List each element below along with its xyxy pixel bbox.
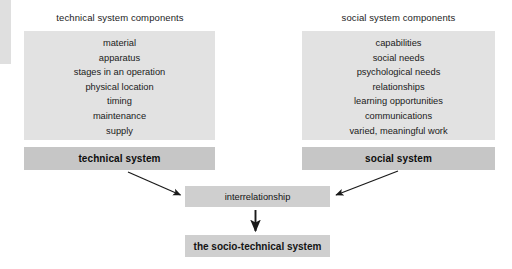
list-item: maintenance — [24, 109, 215, 124]
list-item: communications — [302, 109, 495, 124]
arrow-technical-to-interrelationship — [128, 172, 181, 195]
scan-edge-artifact — [0, 0, 11, 64]
list-item: social needs — [302, 51, 495, 66]
technical-column-heading: technical system components — [24, 12, 216, 23]
social-system-bar: social system — [302, 147, 495, 170]
list-item: learning opportunities — [302, 94, 495, 109]
list-item: timing — [24, 94, 215, 109]
socio-technical-system-box: the socio-technical system — [185, 235, 330, 257]
social-components-box: capabilities social needs psychological … — [302, 31, 495, 140]
list-item: capabilities — [302, 36, 495, 51]
list-item: apparatus — [24, 51, 215, 66]
list-item: varied, meaningful work — [302, 124, 495, 139]
interrelationship-box: interrelationship — [185, 186, 330, 207]
list-item: material — [24, 36, 215, 51]
social-column-heading: social system components — [302, 12, 495, 23]
list-item: psychological needs — [302, 65, 495, 80]
technical-components-box: material apparatus stages in an operatio… — [24, 31, 215, 140]
technical-system-bar: technical system — [24, 147, 215, 170]
socio-technical-system-diagram: technical system components material app… — [0, 0, 512, 269]
list-item: stages in an operation — [24, 65, 215, 80]
list-item: physical location — [24, 80, 215, 95]
list-item: relationships — [302, 80, 495, 95]
arrow-social-to-interrelationship — [336, 171, 398, 195]
list-item: supply — [24, 124, 215, 139]
